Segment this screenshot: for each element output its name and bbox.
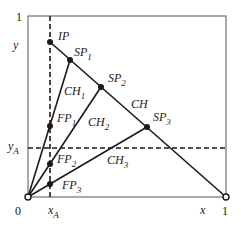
sp2-label: SP2 [108, 71, 126, 88]
fp1-label: FP1 [56, 111, 76, 128]
fp3-label: FP3 [61, 178, 82, 195]
ip-label: IP [57, 29, 70, 43]
xA-label: xA [47, 203, 59, 220]
sp2-point [98, 84, 104, 90]
fp3-point [47, 181, 53, 187]
fp1-point [47, 123, 53, 129]
diagram-canvas: 1 y 0 1 x xA yA IP SP1 SP2 SP3 FP1 FP2 F… [0, 0, 241, 232]
x-axis-label: x [199, 203, 206, 217]
yA-label: yA [7, 139, 19, 156]
y-max-label: 1 [16, 10, 22, 24]
ch-line [50, 42, 226, 197]
phase-diagram: 1 y 0 1 x xA yA IP SP1 SP2 SP3 FP1 FP2 F… [0, 0, 241, 232]
sp1-point [67, 57, 73, 63]
y-axis-label: y [12, 38, 19, 52]
origin-label: 0 [15, 204, 21, 218]
fp2-label: FP2 [56, 152, 77, 169]
sp3-label: SP3 [153, 110, 171, 127]
origin-point [25, 194, 31, 200]
x1-point [223, 194, 229, 200]
fp2-point [47, 161, 53, 167]
ch-label: CH [131, 97, 149, 111]
ch3-label: CH3 [107, 153, 129, 170]
x-max-label: 1 [222, 204, 228, 218]
sp3-point [144, 124, 150, 130]
ch1-label: CH1 [64, 84, 85, 101]
ip-point [47, 39, 53, 45]
sp1-label: SP1 [74, 45, 92, 62]
ch2-label: CH2 [88, 115, 110, 132]
